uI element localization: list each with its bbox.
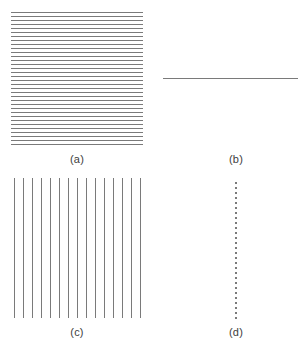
panel-d-dotted-vertical-line [235,182,237,321]
dotted-vertical-line-svg [235,182,237,321]
panel-c-vertical-grating [14,178,141,318]
panel-b-caption: (b) [196,153,276,166]
panel-a-caption: (a) [37,153,117,166]
panel-a-horizontal-grating [11,12,143,149]
vertical-grating-svg [14,178,141,318]
figure-root: (a) (b) (c) (d) [0,0,304,349]
panel-b-single-horizontal-line [163,78,298,80]
panel-d-caption: (d) [196,326,276,339]
horizontal-grating-svg [11,12,143,149]
single-horizontal-rule [163,78,298,79]
panel-c-caption: (c) [37,326,117,339]
